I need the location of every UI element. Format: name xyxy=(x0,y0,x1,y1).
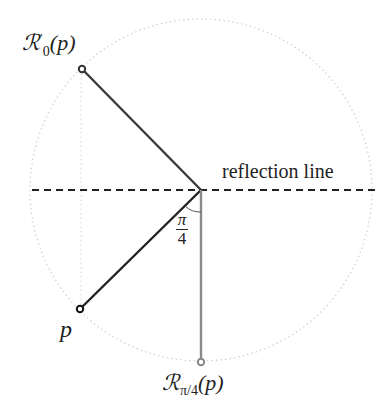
reflected-point-marker xyxy=(79,66,85,72)
segment-to-p xyxy=(80,190,201,309)
script-r: ℛ xyxy=(162,370,180,395)
script-r: ℛ xyxy=(22,30,40,55)
angle-denominator: 4 xyxy=(178,231,187,247)
label-p: p xyxy=(60,316,72,343)
diagram-canvas xyxy=(0,0,392,412)
segment-to-reflected-point xyxy=(82,69,201,190)
rotated-point-marker xyxy=(198,359,204,365)
subscript: π/4 xyxy=(180,383,198,398)
label-reflection-line: reflection line xyxy=(222,160,334,183)
argument: (p) xyxy=(198,370,224,395)
angle-label: π 4 xyxy=(176,212,188,247)
p-point-marker xyxy=(77,306,83,312)
argument: (p) xyxy=(50,30,76,55)
subscript: 0 xyxy=(43,44,50,59)
label-rotated-point: ℛπ/4(p) xyxy=(162,370,224,399)
angle-numerator: π xyxy=(178,212,187,228)
label-reflected-point: ℛ′0(p) xyxy=(22,30,76,60)
